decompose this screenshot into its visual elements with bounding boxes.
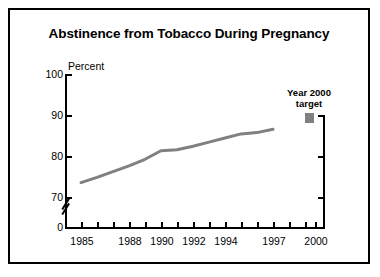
legend-label: Year 2000 target <box>273 88 345 110</box>
x-tick-label-1985: 1985 <box>62 236 102 247</box>
y-tick-label-70: 70 <box>23 192 63 203</box>
y-axis-label: Percent <box>68 60 104 72</box>
year-2000-target-swatch <box>305 113 314 123</box>
y-tick-label-100: 100 <box>23 69 63 80</box>
chart-title: Abstinence from Tobacco During Pregnancy <box>10 26 368 41</box>
y-tick-label-80: 80 <box>23 151 63 162</box>
legend: Year 2000 target <box>273 88 345 123</box>
figure-panel: Abstinence from Tobacco During Pregnancy… <box>8 8 370 264</box>
x-tick-label-1997: 1997 <box>254 236 294 247</box>
x-tick-label-1994: 1994 <box>206 236 246 247</box>
y-tick-label-0: 0 <box>23 222 63 233</box>
y-tick-label-90: 90 <box>23 110 63 121</box>
x-tick-label-2000: 2000 <box>296 236 336 247</box>
